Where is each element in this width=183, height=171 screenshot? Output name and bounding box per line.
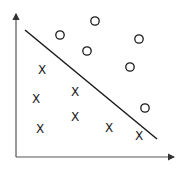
- decision-boundary-line: [25, 30, 157, 139]
- cross-marker: X: [71, 111, 79, 123]
- cross-marker: X: [105, 122, 113, 134]
- circle-marker: [83, 47, 91, 55]
- cross-marker: X: [71, 86, 79, 98]
- cross-marker: X: [38, 64, 46, 76]
- circle-class-markers: [56, 17, 149, 112]
- circle-marker: [91, 17, 99, 25]
- circle-marker: [56, 31, 64, 39]
- scatter-diagram: [0, 0, 183, 171]
- cross-marker: X: [32, 93, 40, 105]
- circle-marker: [126, 63, 134, 71]
- circle-marker: [135, 35, 143, 43]
- cross-marker: X: [135, 130, 143, 142]
- cross-marker: X: [36, 123, 44, 135]
- circle-marker: [141, 104, 149, 112]
